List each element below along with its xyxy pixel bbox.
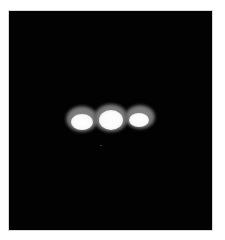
spot-core-left	[71, 114, 93, 130]
spot-core-right	[129, 113, 149, 127]
spot-core-center	[99, 110, 123, 130]
artifact-dot	[100, 145, 102, 146]
